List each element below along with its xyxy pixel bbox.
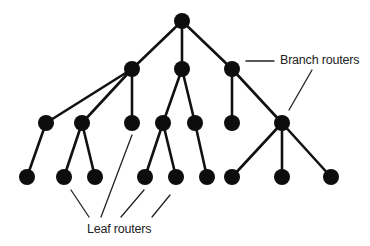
branch-routers-label: Branch routers (280, 53, 359, 67)
leaf-callout-line (121, 190, 144, 217)
tree-edges (27, 21, 331, 177)
tree-edge (64, 123, 82, 177)
branch-router-node (274, 115, 290, 131)
branch-router-node (224, 61, 240, 77)
tree-edge (163, 69, 182, 123)
tree-edge (132, 21, 182, 69)
router-tree-diagram: Branch routers Leaf routers (0, 0, 370, 246)
leaf-router-node (168, 169, 184, 185)
branch-router-node (155, 115, 171, 131)
branch-callout-line (289, 70, 312, 110)
leaf-router-node (87, 169, 103, 185)
leaf-router-node (224, 115, 240, 131)
leaf-callout-line (152, 195, 170, 217)
branch-router-node (174, 13, 190, 29)
tree-edge (195, 123, 207, 177)
tree-edge (163, 123, 176, 177)
branch-router-node (74, 115, 90, 131)
tree-edge (232, 123, 282, 177)
tree-edge (182, 69, 195, 123)
leaf-router-node (19, 169, 35, 185)
branch-router-node (174, 61, 190, 77)
leaf-callout-line (101, 135, 132, 217)
router-nodes (19, 13, 339, 185)
tree-edge (182, 21, 232, 69)
leaf-router-node (224, 169, 240, 185)
tree-edge (232, 69, 282, 123)
tree-edge (145, 123, 163, 177)
leaf-routers-label: Leaf routers (87, 222, 151, 236)
leaf-router-node (124, 115, 140, 131)
tree-edge (282, 123, 331, 177)
leaf-callout-line (71, 190, 89, 217)
tree-edge (82, 123, 95, 177)
branch-router-node (38, 115, 54, 131)
leaf-router-node (56, 169, 72, 185)
leaf-router-node (199, 169, 215, 185)
branch-router-node (187, 115, 203, 131)
leaf-router-node (323, 169, 339, 185)
tree-edge (27, 123, 46, 177)
leaf-router-node (274, 169, 290, 185)
branch-router-node (124, 61, 140, 77)
leaf-router-node (137, 169, 153, 185)
